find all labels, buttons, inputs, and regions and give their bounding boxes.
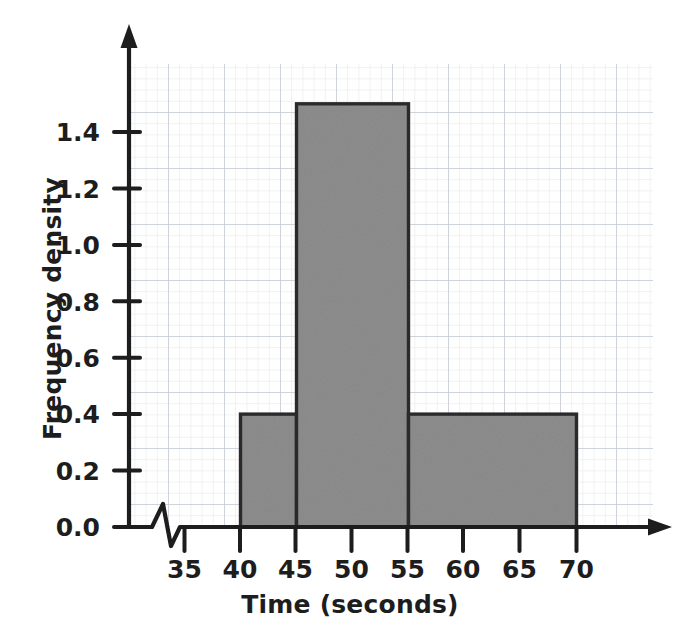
x-axis-title: Time (seconds) [200,590,500,619]
x-tick-marks [185,527,577,551]
x-tick-label-70: 70 [549,555,605,584]
x-tick-label-60: 60 [435,555,491,584]
x-tick-label-35: 35 [157,555,213,584]
y-tick-label-0: 0.0 [28,513,100,542]
x-tick-label-50: 50 [324,555,380,584]
x-tick-label-55: 55 [380,555,436,584]
bar-40-45 [241,414,297,527]
histogram-figure: 0.0 0.2 0.4 0.6 0.8 1.0 1.2 1.4 35 40 45… [0,0,685,642]
bar-55-70 [409,414,577,527]
bar-45-55 [297,104,409,527]
chart-canvas [0,0,685,642]
y-axis-title: Frequency density [38,139,67,479]
x-tick-label-40: 40 [212,555,268,584]
x-tick-label-45: 45 [268,555,324,584]
x-tick-label-65: 65 [492,555,548,584]
